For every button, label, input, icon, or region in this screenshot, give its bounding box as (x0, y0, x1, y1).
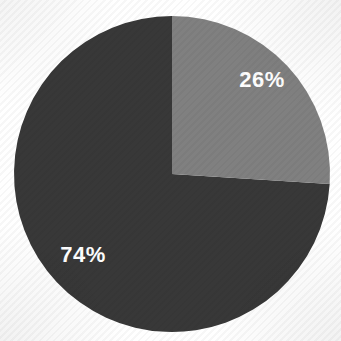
pie-slice-label-74: 74% (60, 242, 106, 267)
pie-slice-label-26: 26% (239, 67, 285, 92)
pie-slice-26[interactable] (172, 16, 330, 184)
pie-chart-canvas: 26% 74% (0, 0, 341, 341)
pie-chart-figure: 26% 74% (0, 0, 341, 341)
